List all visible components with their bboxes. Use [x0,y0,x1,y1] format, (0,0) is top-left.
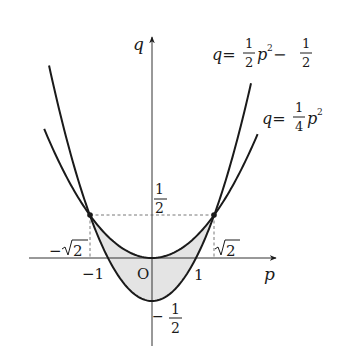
svg-text:1: 1 [295,100,303,115]
intersection-point-left [87,212,93,218]
function-graph: q p O −1 1 − 2 2 1 2 − 1 2 q= 1 2 p 2 − … [0,0,350,362]
intersection-point-right [211,212,217,218]
x-axis-label: p [264,264,275,284]
svg-text:1: 1 [155,181,164,197]
tick-label-sqrt2: 2 [215,240,240,260]
svg-text:1: 1 [171,301,180,317]
svg-text:p: p [257,45,267,64]
svg-text:p: p [307,109,317,128]
tick-label-neg-half: − 1 2 [152,301,182,336]
tick-label-half: 1 2 [154,181,167,216]
svg-text:2: 2 [267,43,273,53]
svg-text:2: 2 [302,55,310,70]
svg-text:2: 2 [317,107,323,117]
svg-text:2: 2 [155,200,164,216]
tick-label-one: 1 [194,266,204,284]
tick-label-neg-sqrt2: − 2 [49,240,88,260]
equation-shallow: q= 1 4 p 2 [262,100,323,134]
svg-text:2: 2 [171,320,180,336]
svg-text:−: − [273,45,286,64]
equation-steep: q= 1 2 p 2 − 1 2 [212,36,312,70]
svg-text:q=: q= [262,109,286,128]
svg-text:1: 1 [302,36,310,51]
curve-quarter-p-squared [44,129,257,258]
svg-text:2: 2 [226,242,236,260]
svg-text:4: 4 [295,119,303,134]
svg-text:q=: q= [212,45,236,64]
svg-text:1: 1 [245,36,253,51]
svg-text:2: 2 [245,55,253,70]
svg-text:−: − [49,242,62,260]
svg-text:−: − [152,308,164,324]
y-axis-label: q [133,34,144,54]
svg-text:2: 2 [73,242,83,260]
tick-label-neg-one: −1 [82,265,104,283]
origin-label: O [137,265,149,283]
